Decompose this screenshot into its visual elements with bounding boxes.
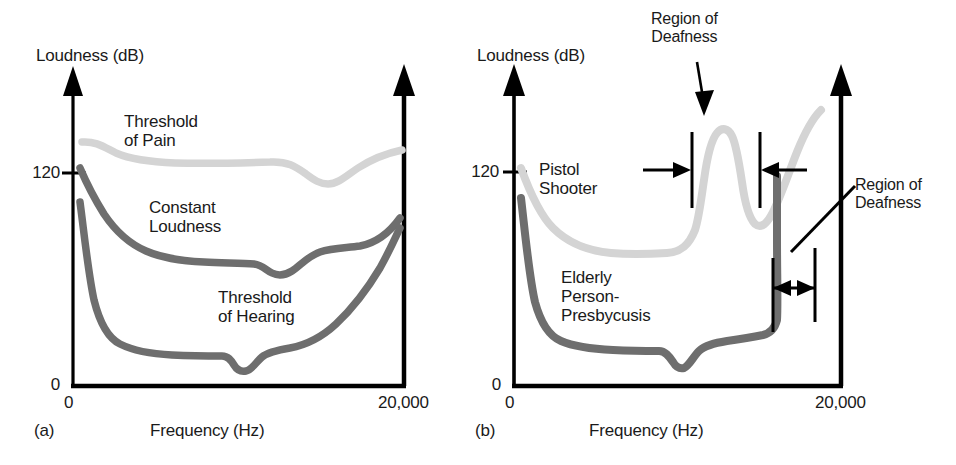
panel-b-xtick-20000: 20,000 bbox=[815, 393, 866, 412]
panel-a-ytick-120: 120 bbox=[28, 163, 60, 182]
curve-threshold-of-hearing bbox=[80, 202, 400, 371]
panel-b: Loudness (dB) 120 0 0 20,000 Frequency (… bbox=[455, 0, 956, 465]
panel-a-xtick-20000: 20,000 bbox=[378, 393, 429, 412]
annotation-down-arrow bbox=[695, 62, 714, 116]
panel-b-plot bbox=[455, 0, 956, 465]
panel-b-x-axis-title: Frequency (Hz) bbox=[589, 421, 703, 440]
label-elderly-presbycusis: Elderly Person- Presbycusis bbox=[561, 268, 650, 325]
panel-a: Loudness (dB) 120 0 0 20,000 Frequency (… bbox=[0, 0, 470, 465]
annotation-region-of-deafness-right: Region of Deafness bbox=[855, 176, 922, 212]
label-threshold-of-pain: Threshold of Pain bbox=[124, 112, 198, 150]
label-constant-loudness: Constant Loudness bbox=[149, 198, 221, 236]
label-threshold-of-hearing: Threshold of Hearing bbox=[218, 288, 294, 326]
annotation-region-of-deafness-top: Region of Deafness bbox=[651, 10, 718, 46]
annotation-upper-left-marker bbox=[643, 132, 692, 208]
curve-constant-loudness bbox=[80, 168, 400, 275]
panel-b-ytick-0: 0 bbox=[475, 375, 501, 394]
panel-b-xtick-0: 0 bbox=[505, 393, 514, 412]
panel-a-y-axis-title: Loudness (dB) bbox=[36, 46, 144, 65]
panel-b-tag: (b) bbox=[475, 421, 495, 440]
panel-b-right-border bbox=[830, 64, 852, 386]
panel-b-y-axis-title: Loudness (dB) bbox=[477, 46, 585, 65]
panel-a-tag: (a) bbox=[34, 421, 54, 440]
panel-a-x-axis-title: Frequency (Hz) bbox=[150, 421, 264, 440]
panel-a-xtick-0: 0 bbox=[64, 393, 73, 412]
label-pistol-shooter: Pistol Shooter bbox=[539, 160, 597, 198]
figure-container: Loudness (dB) 120 0 0 20,000 Frequency (… bbox=[0, 0, 956, 465]
annotation-leader-line bbox=[791, 186, 855, 252]
panel-a-ytick-0: 0 bbox=[34, 375, 60, 394]
panel-b-ytick-120: 120 bbox=[467, 162, 499, 181]
